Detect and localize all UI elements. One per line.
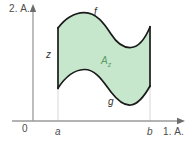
origin-label: 0 xyxy=(22,123,28,134)
x-tick-label-a: a xyxy=(55,126,61,137)
x-tick-label-b: b xyxy=(147,126,153,137)
area-region-label: Az xyxy=(101,55,111,68)
area-label-base: A xyxy=(101,55,108,66)
lower-curve-label-g: g xyxy=(108,96,114,107)
x-axis-label: 1. A. xyxy=(163,126,184,137)
x-axis-arrow-icon xyxy=(177,118,185,124)
diagram-canvas xyxy=(0,0,191,145)
area-label-subscript: z xyxy=(108,61,112,68)
y-axis-arrow-icon xyxy=(30,4,36,12)
y-axis-label: 2. A. xyxy=(9,3,30,14)
area-between-curves-figure: 2. A. 1. A. 0 f g z a b Az xyxy=(0,0,191,145)
left-edge-label-z: z xyxy=(46,49,51,60)
upper-curve-label-f: f xyxy=(94,6,97,17)
